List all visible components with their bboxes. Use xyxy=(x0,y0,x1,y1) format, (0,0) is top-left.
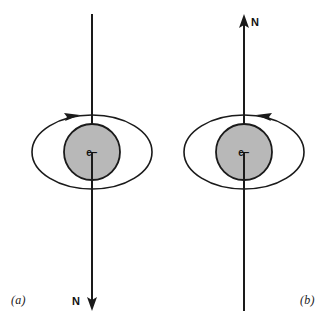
pole-label-a: N xyxy=(72,295,80,307)
panel-caption-a: (a) xyxy=(11,293,26,308)
panel-a: e− xyxy=(32,14,152,311)
electron-label-a: e− xyxy=(86,147,98,158)
electron-spin-diagram: e− e− xyxy=(0,0,334,333)
pole-label-b: N xyxy=(251,16,259,28)
panel-b: e− xyxy=(184,14,304,311)
orbit-arrowhead-a xyxy=(64,113,80,121)
electron-label-b: e− xyxy=(238,147,250,158)
orbit-arrowhead-b xyxy=(256,113,272,121)
panel-caption-b: (b) xyxy=(300,293,315,308)
